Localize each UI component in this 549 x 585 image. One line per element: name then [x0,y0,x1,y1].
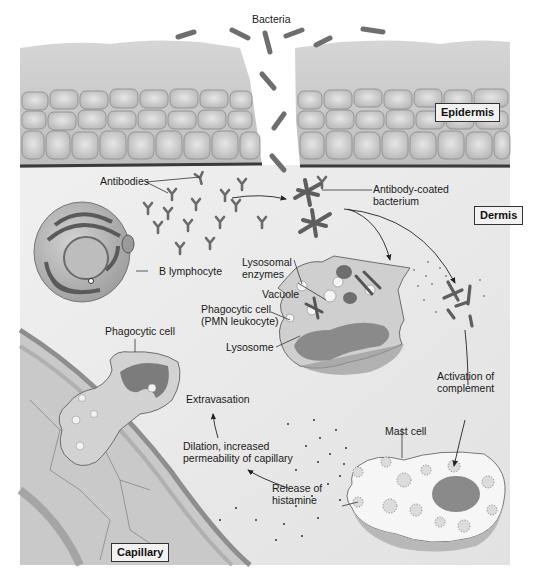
label-antibodies: Antibodies [100,175,149,187]
region-capillary: Capillary [111,543,169,562]
label-extravasation: Extravasation [186,393,250,405]
label-bacteria: Bacteria [252,13,291,25]
epidermis-left [20,40,262,168]
label-dilation-2: permeability of capillary [183,452,293,464]
label-mast-cell: Mast cell [385,425,426,437]
label-antibody-coated-1: Antibody-coated [373,183,449,195]
label-vacuole: Vacuole [262,288,299,300]
label-histamine-2: histamine [272,494,317,506]
label-dilation-1: Dilation, increased [183,440,269,452]
label-antibody-coated-2: bacterium [373,195,419,207]
pmn-leukocyte [278,256,410,375]
label-activation-1: Activation of [437,370,494,382]
label-lysosomal-1: Lysosomal [242,256,292,268]
label-lysosomal-2: enzymes [242,268,284,280]
label-phagocytic-pmn-1: Phagocytic cell [201,303,271,315]
label-histamine-1: Release of [272,482,322,494]
region-epidermis: Epidermis [435,103,500,122]
inflammation-diagram: Bacteria Epidermis Dermis Capillary Anti… [0,0,549,585]
region-dermis: Dermis [474,206,523,225]
label-phagocytic-cell: Phagocytic cell [105,325,175,337]
label-phagocytic-pmn-2: (PMN leukocyte) [201,315,279,327]
label-activation-2: complement [437,382,494,394]
label-b-lymphocyte: B lymphocyte [159,265,222,277]
label-lysosome: Lysosome [226,341,273,353]
